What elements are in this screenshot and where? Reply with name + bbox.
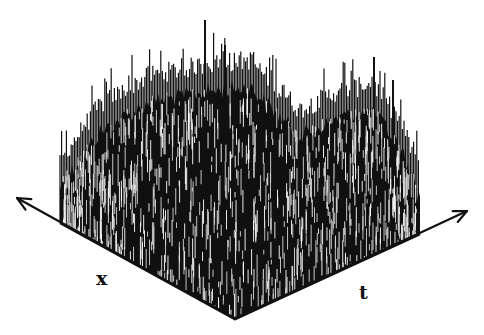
spike-surface-figure — [0, 0, 484, 335]
spike-field — [60, 20, 420, 319]
x-axis-label: x — [96, 269, 107, 288]
t-axis-label: t — [359, 283, 368, 302]
